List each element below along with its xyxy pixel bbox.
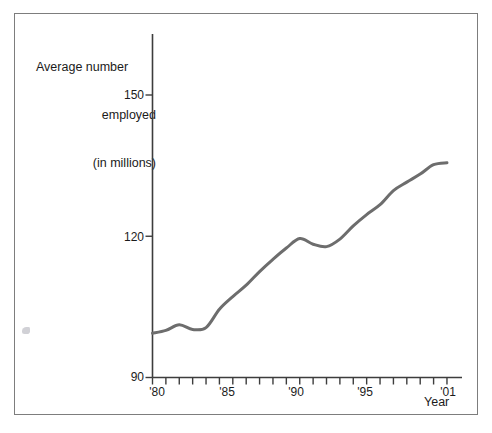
figure-canvas: Average number employed (in millions) Ye… <box>0 0 492 433</box>
data-line-average-employed <box>153 163 447 333</box>
axis-lines <box>153 34 463 378</box>
y-tick-marks <box>146 95 153 378</box>
plot-area <box>0 0 492 433</box>
x-tick-marks <box>153 378 447 385</box>
